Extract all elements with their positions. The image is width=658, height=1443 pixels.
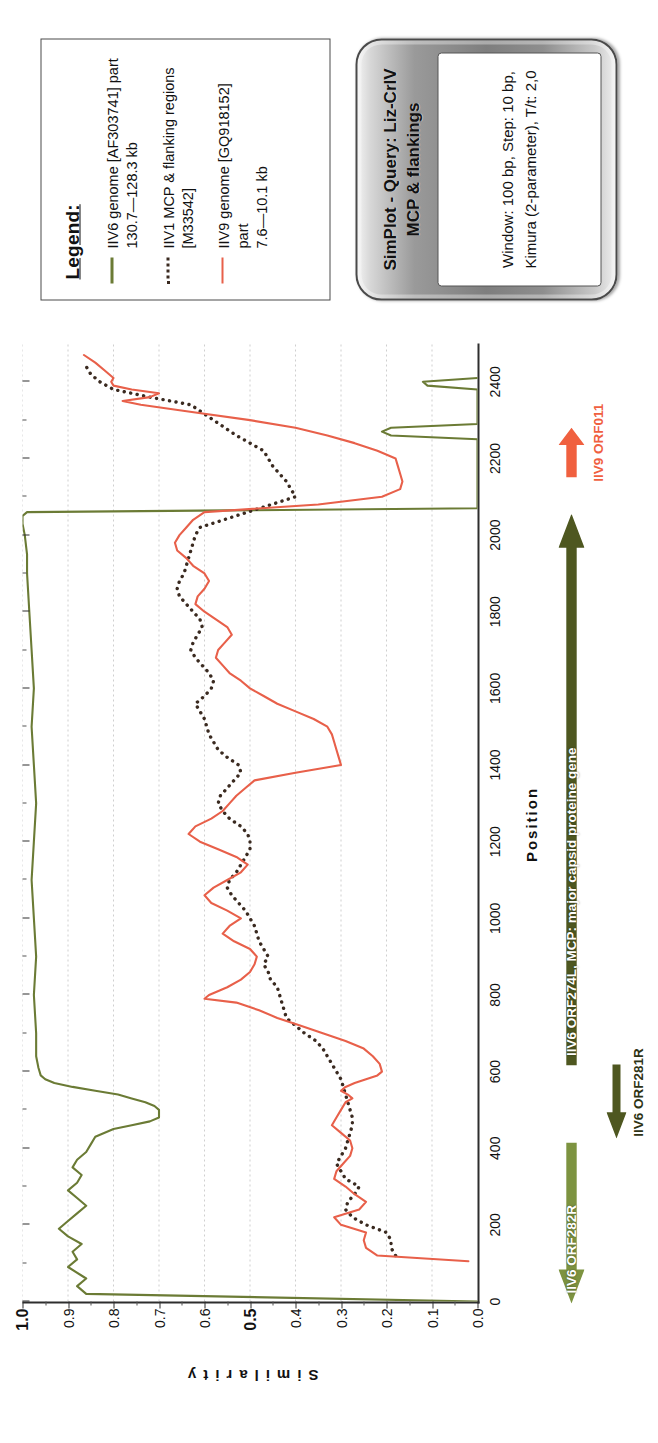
y-axis-tick-label: 0.8	[105, 1308, 121, 1327]
plot-canvas	[22, 343, 477, 1301]
y-axis-tick-label: 0.4	[287, 1308, 303, 1327]
y-axis-minor-tick	[409, 1301, 410, 1305]
orf-arrow-iiv9-orf011	[558, 427, 584, 477]
x-axis-tick-label: 200	[486, 1213, 502, 1236]
orf-label: IIV9 ORF011	[590, 403, 605, 481]
red-solid-line-swatch	[221, 257, 237, 283]
y-axis-tick-mark	[204, 1301, 205, 1308]
x-axis-tick-label: 2000	[486, 519, 502, 550]
x-axis-tick-mark	[22, 1300, 29, 1301]
legend-title: Legend:	[61, 55, 83, 279]
plaque-params-line2: Kimura (2-parameter), T/t: 2,0	[519, 70, 542, 268]
x-axis-tick-mark	[22, 687, 29, 688]
y-axis-minor-tick	[90, 1301, 91, 1305]
plaque-title-line2: MCP & flankings	[402, 68, 425, 270]
x-axis-minor-tick	[22, 955, 26, 956]
x-axis-minor-tick	[22, 419, 26, 420]
y-axis-minor-tick	[363, 1301, 364, 1305]
y-axis-tick-label: 0.9	[60, 1308, 76, 1327]
x-axis-tick-label: 1000	[486, 902, 502, 933]
x-axis-tick-mark	[22, 534, 29, 535]
y-axis-tick-mark	[386, 1301, 387, 1308]
x-axis-tick-mark	[22, 993, 29, 994]
x-axis-tick-label: 2400	[486, 366, 502, 397]
y-axis-tick-label: 0.6	[196, 1308, 212, 1327]
x-axis-tick-mark	[22, 1223, 29, 1224]
x-axis-tick-mark	[22, 1070, 29, 1071]
x-axis-minor-tick	[22, 1185, 26, 1186]
x-axis-tick-mark	[22, 1147, 29, 1148]
y-axis-tick-label: 1.0	[13, 1308, 31, 1330]
series-line	[86, 366, 395, 1255]
plaque-title: SimPlot - Query: Liz-CrIV MCP & flanking…	[379, 68, 425, 270]
y-axis-tick-mark	[295, 1301, 296, 1308]
legend-rows: IIV6 genome [AF303741] part130.7—128.3 k…	[103, 55, 271, 283]
y-axis-tick-mark	[477, 1301, 478, 1308]
plaque-parameters: Window: 100 bp, Step: 10 bp, Kimura (2-p…	[437, 52, 601, 286]
x-axis-tick-mark	[22, 610, 29, 611]
y-axis-title: Similarity	[22, 1366, 477, 1383]
legend-item-label: IIV9 genome [GQ918152] part7.6—10.1 kb	[214, 55, 271, 248]
x-axis-tick-label: 0	[486, 1297, 502, 1305]
legend-item-label: IIV6 genome [AF303741] part130.7—128.3 k…	[103, 58, 141, 248]
x-axis-tick-label: 1600	[486, 672, 502, 703]
x-axis-tick-label: 400	[486, 1136, 502, 1159]
dark-dotted-line-swatch	[166, 257, 183, 283]
y-axis-tick-label: 0.0	[469, 1308, 485, 1327]
series-line	[83, 355, 467, 1261]
y-axis-tick-label: 0.5	[241, 1308, 259, 1330]
y-axis-tick-mark	[68, 1301, 69, 1308]
x-axis-minor-tick	[22, 1262, 26, 1263]
orf-label: IIV6 ORF274L, MCP: major capsid proteine…	[563, 747, 578, 1055]
y-axis-tick-mark	[159, 1301, 160, 1308]
x-axis-tick-mark	[22, 380, 29, 381]
x-axis-minor-tick	[22, 495, 26, 496]
legend-item: IIV1 MCP & flanking regions[M33542]	[159, 55, 197, 283]
y-axis-tick-mark	[432, 1301, 433, 1308]
y-axis-minor-tick	[454, 1301, 455, 1305]
x-axis-minor-tick	[22, 802, 26, 803]
x-axis-tick-mark	[22, 457, 29, 458]
x-axis-tick-label: 600	[486, 1059, 502, 1082]
y-axis-tick-label: 0.2	[378, 1308, 394, 1327]
x-axis-tick-label: 1400	[486, 749, 502, 780]
arrow-shape	[558, 427, 584, 477]
x-axis-minor-tick	[22, 725, 26, 726]
x-axis-tick-label: 1800	[486, 596, 502, 627]
x-axis-minor-tick	[22, 1108, 26, 1109]
green-solid-line-swatch	[110, 257, 127, 283]
simplot-figure: 1.00.90.80.70.60.50.40.30.20.10.00200400…	[0, 0, 658, 1443]
plot-area: 1.00.90.80.70.60.50.40.30.20.10.00200400…	[22, 343, 479, 1303]
y-axis-tick-label: 0.7	[151, 1308, 167, 1327]
y-axis-minor-tick	[181, 1301, 182, 1305]
x-axis-tick-label: 1200	[486, 826, 502, 857]
plaque-params-line1: Window: 100 bp, Step: 10 bp,	[496, 71, 519, 268]
x-axis-minor-tick	[22, 572, 26, 573]
y-axis-tick-label: 0.3	[333, 1308, 349, 1327]
y-axis-minor-tick	[227, 1301, 228, 1305]
x-axis-minor-tick	[22, 649, 26, 650]
arrow-shape	[606, 1064, 626, 1139]
y-axis-minor-tick	[318, 1301, 319, 1305]
x-axis-minor-tick	[22, 878, 26, 879]
x-axis-tick-mark	[22, 917, 29, 918]
x-axis-tick-mark	[22, 764, 29, 765]
y-axis-tick-mark	[113, 1301, 114, 1308]
y-axis-minor-tick	[136, 1301, 137, 1305]
y-axis-tick-mark	[22, 1301, 23, 1308]
x-axis-title: Position	[522, 345, 539, 1303]
orf-label: IIV6 ORF282R	[563, 1204, 578, 1293]
series-line	[22, 377, 477, 1301]
plot-wrapper: 1.00.90.80.70.60.50.40.30.20.10.00200400…	[14, 325, 644, 1365]
x-axis-tick-label: 2200	[486, 442, 502, 473]
x-axis-tick-mark	[22, 840, 29, 841]
orf-arrow-track: IIV6 ORF282RIIV6 ORF281RIIV6 ORF274L, MC…	[544, 345, 639, 1303]
legend-item: IIV6 genome [AF303741] part130.7—128.3 k…	[103, 55, 141, 283]
orf-arrow-iiv6-orf281r	[606, 1064, 626, 1139]
orf-label: IIV6 ORF281R	[630, 1048, 645, 1137]
y-axis-tick-label: 0.1	[424, 1308, 440, 1327]
info-plaque: SimPlot - Query: Liz-CrIV MCP & flanking…	[355, 38, 617, 300]
x-axis-tick-label: 800	[486, 983, 502, 1006]
y-axis-minor-tick	[45, 1301, 46, 1305]
plaque-title-line1: SimPlot - Query: Liz-CrIV	[379, 68, 402, 270]
